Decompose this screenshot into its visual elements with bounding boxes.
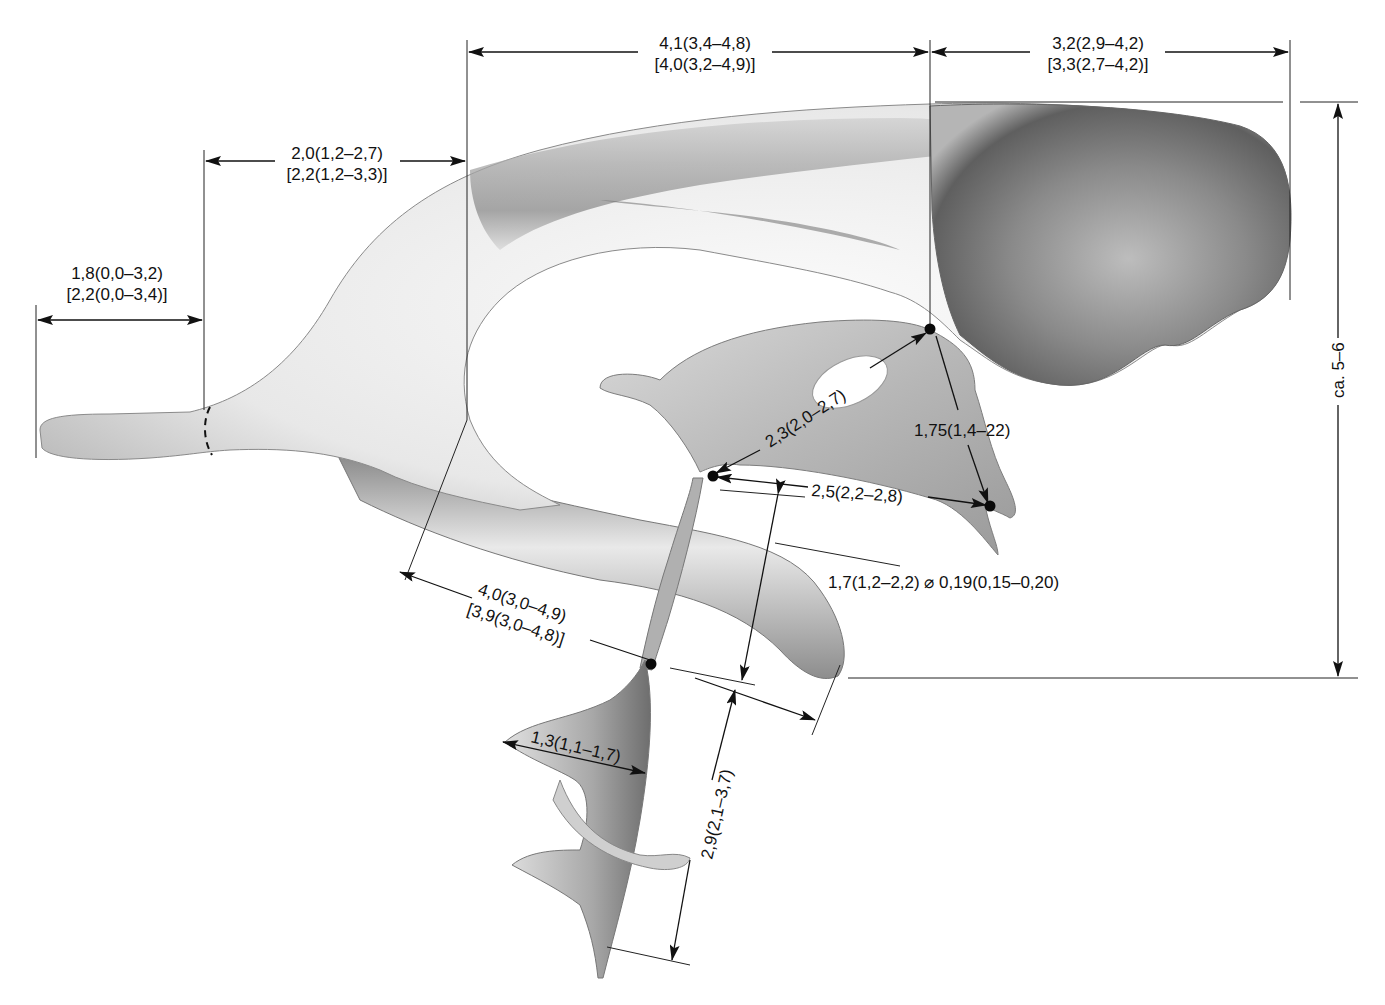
label-fourth-ventricle-height: 2,9(2,1–3,7) (697, 767, 736, 861)
label-occipital-top-1: 3,2(2,9–4,2) (1052, 34, 1144, 53)
point-marker (925, 324, 936, 335)
ventricle-cast (40, 103, 1291, 978)
label-third-ventricle-vert: 1,75(1,4–22) (914, 421, 1010, 440)
point-marker (985, 501, 996, 512)
point-marker (708, 471, 719, 482)
ventricle-diagram: 4,1(3,4–4,8) [4,0(3,2–4,9)] 3,2(2,9–4,2)… (0, 0, 1385, 1005)
point-marker (646, 659, 657, 670)
label-frontal-horn-top-2: [4,0(3,2–4,9)] (654, 55, 755, 74)
label-frontal-horn-top-1: 4,1(3,4–4,8) (659, 34, 751, 53)
frontal-horn (930, 104, 1291, 385)
label-central-part-1: 2,0(1,2–2,7) (291, 144, 383, 163)
label-occipital-horn-1: 1,8(0,0–3,2) (71, 264, 163, 283)
label-central-part-2: [2,2(1,2–3,3)] (286, 165, 387, 184)
label-total-height: ca. 5–6 (1329, 342, 1348, 398)
label-occipital-horn-2: [2,2(0,0–3,4)] (66, 285, 167, 304)
label-occipital-top-2: [3,3(2,7–4,2)] (1047, 55, 1148, 74)
label-aqueduct: 1,7(1,2–2,2) ⌀ 0,19(0,15–0,20) (828, 573, 1059, 592)
